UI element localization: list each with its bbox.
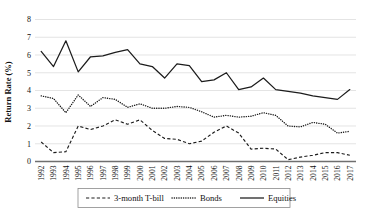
series-line-bonds — [41, 95, 350, 133]
x-axis-tick-label: 2001 — [148, 165, 157, 180]
y-axis-tick-label: 6 — [27, 51, 31, 60]
y-axis-tick-label: 7 — [27, 33, 31, 42]
y-axis-tick-label: 5 — [27, 69, 31, 78]
y-axis-title: Return Rate (%) — [3, 61, 13, 123]
x-axis-tick-label: 1996 — [86, 165, 95, 180]
x-axis-tick-label: 2016 — [333, 165, 342, 180]
y-axis-tick-label: 4 — [27, 86, 31, 95]
x-axis-tick-label: 2002 — [160, 165, 169, 180]
y-axis-tick-group: 012345678 — [27, 15, 31, 166]
y-axis-tick-label: 0 — [27, 157, 31, 166]
x-axis-tick-label: 2013 — [296, 165, 305, 180]
x-axis-tick-label: 1994 — [62, 165, 71, 180]
x-axis-tick-label: 1993 — [49, 165, 58, 180]
legend-label-equities[interactable]: Equities — [268, 193, 297, 203]
x-axis-tick-label: 1992 — [37, 165, 46, 180]
chart-canvas: 012345678 199219931994199519961997199819… — [0, 0, 366, 215]
x-axis-tick-label: 2003 — [173, 165, 182, 180]
x-axis-tick-label: 2014 — [309, 165, 318, 180]
x-axis-tick-label: 2010 — [259, 165, 268, 180]
legend-label-bonds[interactable]: Bonds — [200, 193, 223, 203]
y-axis-tick-label: 8 — [27, 15, 31, 24]
x-axis-tick-label: 2017 — [346, 165, 355, 180]
x-axis-tick-label: 2006 — [210, 165, 219, 180]
y-axis-tick-label: 3 — [27, 104, 31, 113]
x-axis-tick-label: 2000 — [136, 165, 145, 180]
x-axis-tick-label: 2011 — [272, 165, 281, 180]
chart-legend: 3-month T-bill Bonds Equities — [78, 189, 297, 208]
x-axis-tick-label: 2007 — [222, 165, 231, 180]
y-axis-tick-label: 2 — [27, 122, 31, 131]
x-axis-tick-label: 1998 — [111, 165, 120, 180]
gridline-group — [35, 20, 356, 144]
x-axis-tick-label: 1995 — [74, 165, 83, 180]
legend-label-tbill[interactable]: 3-month T-bill — [114, 193, 165, 203]
x-axis-tick-label: 2015 — [321, 165, 330, 180]
x-axis-tick-group: 1992199319941995199619971998199920002001… — [37, 165, 355, 180]
x-axis-tick-label: 2005 — [197, 165, 206, 180]
x-axis-tick-label: 2012 — [284, 165, 293, 180]
x-axis-tick-label: 1997 — [99, 165, 108, 180]
y-axis-tick-label: 1 — [27, 140, 31, 149]
x-axis-tick-label: 2008 — [235, 165, 244, 180]
x-axis-tick-label: 1999 — [123, 165, 132, 180]
x-axis-tick-label: 2009 — [247, 165, 256, 180]
line-chart: 012345678 199219931994199519961997199819… — [0, 0, 366, 215]
x-axis-tick-label: 2004 — [185, 165, 194, 180]
